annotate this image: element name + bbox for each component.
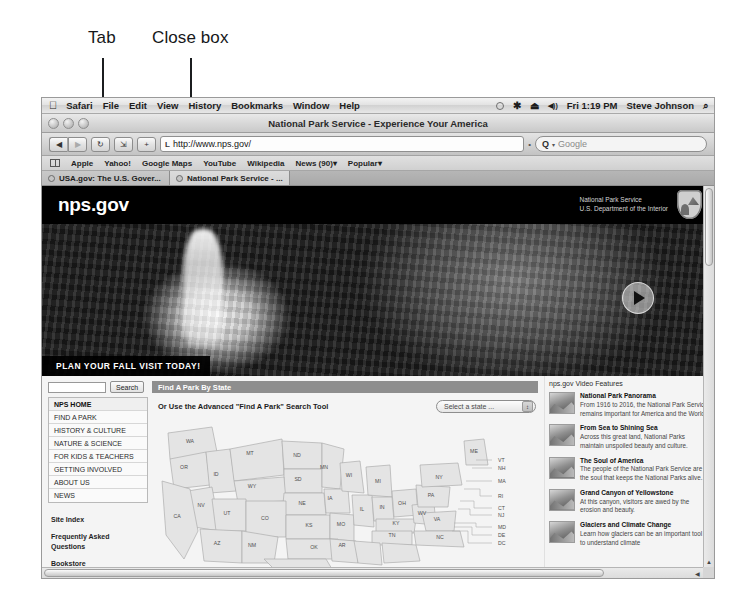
map-state-label[interactable]: MO — [337, 521, 345, 527]
map-state-label[interactable]: AR — [338, 542, 345, 548]
map-state-label[interactable]: IN — [379, 504, 384, 510]
map-state-label[interactable]: WI — [346, 472, 352, 478]
map-state-label[interactable]: ID — [213, 471, 218, 477]
video-item[interactable]: Glaciers and Climate Change Learn how gl… — [549, 521, 708, 547]
map-state-label[interactable]: SD — [294, 476, 301, 482]
map-state-label[interactable]: WA — [186, 438, 195, 444]
map-state-label[interactable]: IA — [328, 495, 333, 501]
nav-item-about-us[interactable]: ABOUT US — [49, 476, 147, 489]
back-button[interactable]: ◀ — [49, 137, 68, 152]
map-state-label[interactable]: UT — [224, 510, 232, 516]
menu-item-view[interactable]: View — [157, 100, 178, 111]
menu-item-bookmarks[interactable]: Bookmarks — [231, 100, 283, 111]
link-site-index[interactable]: Site Index — [51, 515, 139, 524]
map-state-label[interactable]: NV — [197, 502, 205, 508]
menu-item-history[interactable]: History — [188, 100, 221, 111]
video-title[interactable]: The Soul of America — [580, 457, 708, 466]
tab-usa-gov[interactable]: USA.gov: The U.S. Gover... — [42, 171, 170, 185]
map-state-label[interactable]: WV — [418, 510, 427, 516]
window-resize-grip[interactable] — [703, 567, 714, 578]
bookmark-yahoo[interactable]: Yahoo! — [104, 159, 131, 168]
map-leader-label[interactable]: MA — [498, 478, 506, 484]
menubar-clock[interactable]: Fri 1:19 PM — [567, 100, 618, 111]
map-leader-label[interactable]: RI — [498, 493, 503, 499]
map-state-label[interactable]: VA — [434, 516, 441, 522]
us-map-svg[interactable]: WAORIDMTNDSDMNWYNEIANVUTCOKSMOCAAZNMOKAR… — [154, 419, 520, 569]
vertical-scroll-thumb[interactable] — [705, 188, 713, 266]
video-item[interactable]: National Park Panorama From 1916 to 2016… — [549, 392, 708, 418]
add-bookmark-button[interactable]: + — [137, 137, 156, 152]
search-dropdown-icon[interactable]: ▾ — [552, 141, 555, 148]
map-leader-label[interactable]: DC — [498, 540, 506, 546]
us-state-map[interactable]: WAORIDMTNDSDMNWYNEIANVUTCOKSMOCAAZNMOKAR… — [152, 419, 544, 564]
map-state-label[interactable]: ME — [470, 448, 478, 454]
menu-item-window[interactable]: Window — [293, 100, 329, 111]
map-leader-label[interactable]: NJ — [498, 512, 505, 518]
map-leader-label[interactable]: NH — [498, 465, 506, 471]
nav-item-kids-teachers[interactable]: FOR KIDS & TEACHERS — [49, 450, 147, 463]
map-state-label[interactable]: AZ — [214, 540, 221, 546]
map-state-label[interactable]: WY — [248, 483, 257, 489]
tab-close-icon[interactable] — [176, 175, 183, 182]
map-leader-label[interactable]: CT — [498, 505, 506, 511]
tab-close-icon[interactable] — [48, 175, 55, 182]
menubar-user[interactable]: Steve Johnson — [626, 100, 694, 111]
nav-item-history-culture[interactable]: HISTORY & CULTURE — [49, 424, 147, 437]
address-bar[interactable]: L http://www.nps.gov/ — [160, 136, 524, 152]
video-item[interactable]: The Soul of America The people of the Na… — [549, 457, 708, 483]
nav-item-nature-science[interactable]: NATURE & SCIENCE — [49, 437, 147, 450]
horizontal-scroll-thumb[interactable] — [44, 569, 604, 577]
volume-icon[interactable]: ◀)) — [548, 102, 558, 110]
map-state-label[interactable]: OH — [398, 500, 406, 506]
eject-icon[interactable]: ⏏ — [530, 100, 539, 111]
scroll-up-arrow[interactable]: ▲ — [704, 556, 714, 567]
site-search-input[interactable] — [48, 382, 106, 393]
map-leader-label[interactable]: MD — [498, 524, 506, 530]
map-state-label[interactable]: CO — [261, 515, 269, 521]
video-title[interactable]: From Sea to Shining Sea — [580, 424, 708, 433]
map-state-label[interactable]: NY — [435, 474, 443, 480]
map-state-label[interactable]: CA — [173, 513, 181, 519]
map-leader-label[interactable]: VT — [498, 457, 505, 463]
map-state-label[interactable]: NC — [436, 534, 444, 540]
nav-item-getting-involved[interactable]: GETTING INVOLVED — [49, 463, 147, 476]
nav-item-news[interactable]: NEWS — [49, 489, 147, 502]
site-search-button[interactable]: Search — [110, 381, 144, 393]
video-title[interactable]: Glaciers and Climate Change — [580, 521, 708, 530]
video-item[interactable]: From Sea to Shining Sea Across this grea… — [549, 424, 708, 450]
spotlight-search-icon[interactable]: ⌕ — [703, 100, 709, 112]
share-button[interactable]: ⇲ — [114, 137, 133, 152]
bookmark-news[interactable]: News (90)▾ — [295, 159, 336, 168]
nav-item-nps-home[interactable]: NPS HOME — [49, 398, 147, 411]
bookmark-google-maps[interactable]: Google Maps — [142, 159, 192, 168]
map-state-label[interactable]: PA — [428, 492, 435, 498]
map-state-label[interactable]: NM — [248, 542, 256, 548]
menu-item-safari[interactable]: Safari — [66, 100, 92, 111]
search-field[interactable]: Q ▾ Google — [535, 136, 707, 152]
play-button[interactable] — [622, 282, 654, 314]
scroll-left-arrow[interactable]: ◀ — [692, 568, 703, 579]
bookmark-apple[interactable]: Apple — [71, 159, 93, 168]
state-select-dropdown[interactable]: Select a state ... ↕ — [436, 400, 536, 413]
window-titlebar[interactable]: National Park Service - Experience Your … — [42, 114, 714, 133]
horizontal-scrollbar[interactable]: ◀ ▶ — [42, 567, 714, 578]
menu-item-help[interactable]: Help — [339, 100, 360, 111]
map-leader-label[interactable]: DE — [498, 532, 506, 538]
reload-button[interactable]: ↻ — [91, 137, 110, 152]
map-state-label[interactable]: MN — [320, 464, 328, 470]
tab-national-park-service[interactable]: National Park Service - ... — [170, 171, 290, 185]
vertical-scrollbar[interactable]: ▲ ▼ — [703, 186, 714, 578]
map-state-label[interactable]: KS — [306, 522, 313, 528]
bookmark-youtube[interactable]: YouTube — [203, 159, 236, 168]
bookmark-popular[interactable]: Popular▾ — [348, 159, 382, 168]
bookmark-wikipedia[interactable]: Wikipedia — [247, 159, 284, 168]
menu-item-edit[interactable]: Edit — [129, 100, 147, 111]
map-state-label[interactable]: KY — [393, 520, 400, 526]
map-state-label[interactable]: IL — [360, 506, 364, 512]
site-logo[interactable]: nps.gov — [58, 194, 129, 216]
map-state-label[interactable]: OK — [310, 544, 318, 550]
map-state-label[interactable]: MI — [375, 478, 381, 484]
map-state-label[interactable]: NE — [298, 500, 306, 506]
map-state-label[interactable]: OR — [180, 464, 188, 470]
link-faq[interactable]: Frequently Asked Questions — [51, 532, 139, 551]
